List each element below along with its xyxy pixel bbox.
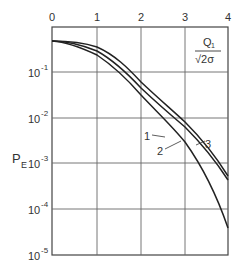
svg-text:10: 10 [28, 250, 40, 262]
svg-text:-4: -4 [41, 200, 49, 209]
svg-text:1: 1 [211, 42, 215, 49]
vertical-gridlines [97, 27, 185, 255]
y-tick-3: 10 -3 [28, 154, 49, 170]
pe-chart: 0 1 2 3 4 10 -1 10 -2 10 -3 10 -4 10 -5 … [0, 0, 242, 270]
curve-label-1: 1 [144, 130, 165, 142]
y-tick-2: 10 -2 [28, 109, 49, 125]
x-tick-3: 3 [182, 11, 188, 23]
svg-text:3: 3 [205, 138, 211, 150]
svg-text:-5: -5 [41, 246, 49, 255]
y-tick-1: 10 -1 [28, 63, 49, 79]
y-tick-5: 10 -5 [28, 246, 49, 262]
curve-1 [52, 41, 228, 228]
svg-text:10: 10 [28, 67, 40, 79]
svg-text:√2σ: √2σ [195, 53, 214, 65]
x-tick-2: 2 [138, 11, 144, 23]
x-tick-4: 4 [225, 11, 231, 23]
x-axis-label: Q 1 √2σ [195, 36, 221, 65]
curve-label-2: 2 [157, 141, 181, 157]
svg-text:E: E [21, 160, 27, 170]
svg-text:-3: -3 [41, 154, 49, 163]
x-tick-1: 1 [94, 11, 100, 23]
svg-text:1: 1 [144, 130, 150, 142]
svg-text:-1: -1 [41, 63, 49, 72]
svg-text:10: 10 [28, 204, 40, 216]
y-tick-4: 10 -4 [28, 200, 49, 216]
svg-text:P: P [12, 151, 21, 166]
y-axis-label: P E [12, 151, 27, 170]
svg-text:2: 2 [157, 145, 163, 157]
svg-text:-2: -2 [41, 109, 49, 118]
x-tick-0: 0 [49, 11, 55, 23]
svg-text:10: 10 [28, 158, 40, 170]
svg-text:10: 10 [28, 113, 40, 125]
